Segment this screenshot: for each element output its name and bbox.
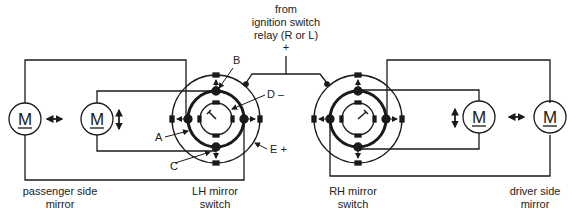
- supply-wire: [244, 56, 329, 86]
- motor-symbol: M: [472, 108, 486, 127]
- callout-e: E +: [270, 143, 287, 155]
- supply-line1: from: [236, 3, 336, 16]
- motor-symbol: M: [543, 108, 557, 127]
- rh-mirror-switch: [312, 73, 404, 165]
- callout-b: B: [233, 54, 240, 66]
- callout-d: D –: [267, 88, 284, 100]
- lh-switch-label: LH mirror switch: [180, 185, 250, 211]
- supply-label: from ignition switch relay (R or L) +: [236, 3, 336, 52]
- callout-c: C: [170, 160, 178, 172]
- motor-symbol: M: [18, 110, 32, 129]
- passenger-wiring: [25, 60, 244, 180]
- supply-line2: ignition switch: [236, 16, 336, 29]
- motor-symbol: M: [90, 110, 104, 129]
- rh-switch-label: RH mirror switch: [318, 185, 388, 211]
- driver-wiring: [330, 60, 550, 176]
- driver-mirror-label: driver side mirror: [500, 185, 570, 211]
- passenger-mirror-label: passenger side mirror: [15, 185, 105, 211]
- supply-polarity: +: [236, 42, 336, 52]
- callout-a: A: [155, 131, 162, 143]
